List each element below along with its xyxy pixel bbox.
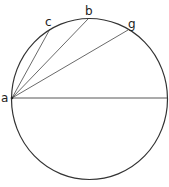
point-a	[11, 97, 14, 100]
chord-a-g	[12, 30, 128, 98]
circle	[12, 19, 168, 180]
circle-diagram: a c b g	[0, 0, 169, 187]
label-a: a	[1, 92, 8, 104]
chord-a-c	[12, 29, 50, 98]
label-c: c	[45, 16, 52, 28]
label-g: g	[128, 18, 136, 30]
label-b: b	[85, 5, 93, 17]
diagram-canvas	[0, 0, 169, 187]
chord-a-b	[12, 19, 88, 98]
